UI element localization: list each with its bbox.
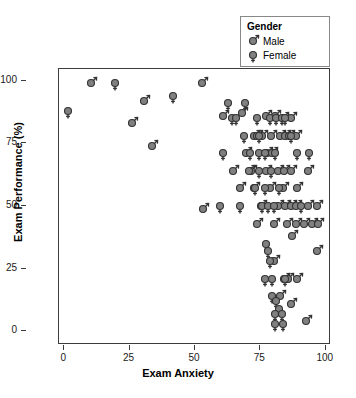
data-point (222, 97, 231, 110)
data-point (303, 147, 312, 160)
data-point (249, 182, 258, 195)
data-point (268, 200, 277, 213)
x-tick-mark (194, 345, 195, 350)
data-point (281, 218, 290, 231)
data-point (269, 147, 278, 160)
data-point (273, 182, 282, 195)
x-axis-label: Exam Anxiety (0, 367, 356, 379)
y-tick-mark (21, 80, 26, 81)
data-point (238, 130, 247, 143)
data-point (259, 182, 268, 195)
y-tick-mark (21, 330, 26, 331)
x-tick-mark (325, 345, 326, 350)
mars-symbol-icon (247, 35, 260, 48)
data-point (295, 200, 304, 213)
data-point (279, 273, 288, 286)
x-tick-label: 25 (123, 352, 134, 363)
data-point (312, 218, 321, 231)
data-point (302, 165, 311, 178)
data-point (146, 140, 155, 153)
x-tick-mark (129, 345, 130, 350)
data-point (291, 273, 300, 286)
data-point (291, 182, 300, 195)
data-point (253, 165, 262, 178)
legend-item-label: Male (263, 35, 285, 48)
data-point (285, 130, 294, 143)
data-point (244, 147, 253, 160)
x-tick-mark (63, 345, 64, 350)
data-point (62, 105, 71, 118)
x-tick-label: 75 (254, 352, 265, 363)
data-point (291, 147, 300, 160)
data-point (234, 182, 243, 195)
scatter-plot-figure: 0255075100 0255075100 Exam Anxiety Exam … (0, 0, 356, 398)
legend-item-female: Female (247, 49, 324, 62)
data-point (126, 117, 135, 130)
legend-title: Gender (247, 21, 324, 33)
data-point (85, 77, 94, 90)
data-point (167, 90, 176, 103)
legend-entries: MaleFemale (247, 35, 324, 62)
x-tick-mark (259, 345, 260, 350)
data-point (227, 165, 236, 178)
data-point (239, 97, 248, 110)
data-point (266, 273, 275, 286)
data-point (286, 230, 295, 243)
data-point (243, 165, 252, 178)
data-point (214, 200, 223, 213)
data-point (300, 315, 309, 328)
data-point (234, 200, 243, 213)
data-point (265, 130, 274, 143)
y-axis-label: Exam Performance (%) (12, 82, 24, 282)
data-point (265, 165, 274, 178)
data-point (259, 147, 268, 160)
data-point (230, 112, 239, 125)
data-point (253, 130, 262, 143)
data-point (251, 218, 260, 231)
data-point (311, 245, 320, 258)
data-point (264, 255, 273, 268)
legend-item-male: Male (247, 35, 324, 48)
data-points-layer (59, 69, 329, 343)
data-point (217, 147, 226, 160)
venus-symbol-icon (247, 49, 260, 62)
x-tick-label: 50 (188, 352, 199, 363)
legend-item-label: Female (263, 49, 296, 62)
data-point (251, 112, 260, 125)
data-point (109, 77, 118, 90)
data-point (311, 200, 320, 213)
data-point (197, 203, 206, 216)
legend: Gender MaleFemale (240, 16, 330, 67)
data-point (138, 95, 147, 108)
data-point (279, 112, 288, 125)
data-point (285, 165, 294, 178)
data-point (277, 318, 286, 331)
x-tick-label: 100 (316, 352, 333, 363)
y-tick-label: 0 (11, 324, 17, 335)
plot-area (58, 68, 330, 344)
x-tick-label: 0 (60, 352, 66, 363)
data-point (196, 77, 205, 90)
data-point (268, 218, 277, 231)
